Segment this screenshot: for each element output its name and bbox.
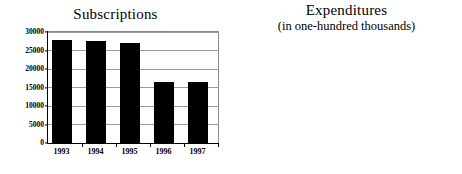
chart-subtitle-expenditures: (in one-hundred thousands) [231, 19, 462, 34]
x-axis-tick-mark [82, 143, 83, 147]
y-axis-tick-label: 30000 [25, 28, 44, 36]
x-axis-tick-mark [184, 143, 185, 147]
x-axis-tick-label: 1997 [190, 148, 206, 156]
plot-area-subscriptions: 0500010000150002000025000300001993199419… [47, 31, 219, 144]
y-axis-tick-mark [45, 68, 49, 69]
y-axis-tick-mark [45, 124, 49, 125]
chart-title-expenditures: Expenditures [231, 2, 462, 19]
x-axis-tick-label: 1995 [122, 148, 138, 156]
y-axis-tick-mark [45, 31, 49, 32]
x-axis-tick-label: 1996 [156, 148, 172, 156]
y-axis-tick-label: 15000 [25, 84, 44, 92]
x-axis-tick-label: 1993 [54, 148, 70, 156]
bar [154, 82, 174, 143]
x-axis-tick-mark [218, 143, 219, 147]
x-axis-tick-mark [150, 143, 151, 147]
x-axis-tick-mark [116, 143, 117, 147]
gridline [48, 32, 218, 33]
y-axis-tick-mark [45, 87, 49, 88]
subscriptions-chart: Subscriptions 05000100001500020000250003… [0, 0, 231, 174]
bar [188, 82, 208, 143]
y-axis-tick-mark [45, 142, 49, 143]
y-axis-tick-mark [45, 105, 49, 106]
bar [120, 43, 140, 143]
x-axis-tick-label: 1994 [88, 148, 104, 156]
y-axis-tick-label: 25000 [25, 47, 44, 55]
chart-title-subscriptions: Subscriptions [0, 6, 231, 23]
y-axis-tick-label: 10000 [25, 102, 44, 110]
y-axis-tick-label: 20000 [25, 65, 44, 73]
bar [52, 40, 72, 143]
y-axis-tick-label: 5000 [29, 121, 44, 129]
y-axis-tick-mark [45, 50, 49, 51]
bar [86, 41, 106, 143]
expenditures-chart: Expenditures (in one-hundred thousands) … [231, 0, 462, 174]
y-axis-tick-label: 0 [40, 139, 44, 147]
